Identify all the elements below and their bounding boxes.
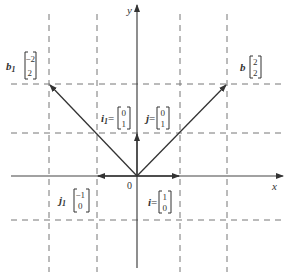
svg-text:2: 2 [253, 57, 258, 67]
svg-text:b1: b1 [6, 60, 16, 74]
vector-b [137, 85, 226, 176]
label-b1: b1 −2 2 [6, 52, 36, 79]
axes [11, 5, 283, 268]
vector-diagram: y x 0 b1 −2 2 b 2 2 i1= 0 1 j= 0 1 j1 −1 [0, 0, 287, 276]
origin-label: 0 [127, 180, 132, 191]
label-j1: j1 −1 0 [57, 189, 89, 212]
svg-text:j=: j= [144, 112, 155, 124]
label-b: b 2 2 [240, 56, 261, 78]
svg-text:i=: i= [148, 196, 157, 208]
label-i: i= 1 0 [148, 191, 171, 213]
svg-text:0: 0 [78, 201, 83, 211]
grid-lines [11, 14, 283, 272]
svg-text:0: 0 [161, 108, 166, 118]
svg-text:1: 1 [163, 192, 168, 202]
svg-text:−2: −2 [26, 54, 36, 64]
svg-text:j1: j1 [57, 194, 66, 208]
svg-text:−1: −1 [76, 190, 86, 200]
svg-text:b: b [240, 61, 246, 73]
label-j: j= 0 1 [144, 107, 169, 129]
diagram-svg: y x 0 b1 −2 2 b 2 2 i1= 0 1 j= 0 1 j1 −1 [0, 0, 287, 276]
vectors [50, 85, 226, 176]
svg-text:0: 0 [163, 203, 168, 213]
y-axis-label: y [126, 4, 132, 16]
svg-text:i1=: i1= [101, 112, 114, 126]
svg-text:1: 1 [161, 119, 166, 129]
svg-text:1: 1 [122, 119, 127, 129]
svg-text:0: 0 [122, 108, 127, 118]
svg-text:2: 2 [253, 68, 258, 78]
label-i1: i1= 0 1 [101, 107, 130, 129]
vector-b1 [50, 85, 137, 176]
x-axis-label: x [271, 180, 277, 192]
svg-text:2: 2 [28, 68, 33, 78]
